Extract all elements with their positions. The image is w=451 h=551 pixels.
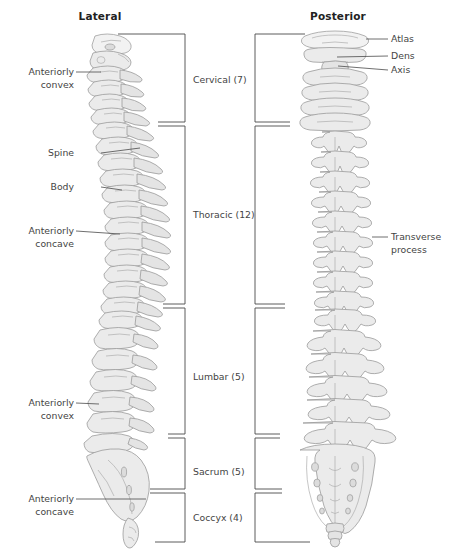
callout-spine-process-line1: Spine	[0, 147, 74, 160]
callout-transverse-process-line1: Transverse	[391, 231, 451, 244]
callout-dens-line1: Dens	[391, 50, 449, 63]
segment-label-lumbar: Lumbar (5)	[193, 371, 245, 382]
bracket-sacrum-posterior	[255, 438, 282, 489]
callout-cervical-curve-line2: convex	[0, 79, 74, 92]
bracket-cervical-posterior	[255, 34, 305, 122]
bracket-thoracic-lateral	[158, 126, 185, 304]
leader-dens	[337, 56, 388, 57]
callout-lumbar-curve: Anteriorly convex	[0, 397, 74, 422]
bracket-thoracic-posterior	[255, 126, 290, 304]
segment-label-sacrum: Sacrum (5)	[193, 466, 245, 477]
bracket-cervical-lateral	[118, 34, 185, 122]
callout-axis: Axis	[391, 64, 449, 77]
callout-atlas-line1: Atlas	[391, 33, 449, 46]
callout-lumbar-curve-line2: convex	[0, 410, 74, 423]
callout-thoracic-curve-line1: Anteriorly	[0, 225, 74, 238]
callout-sacral-curve: Anteriorly concave	[0, 493, 74, 518]
callout-transverse-process: Transverse process	[391, 231, 451, 256]
callout-cervical-curve: Anteriorly convex	[0, 66, 74, 91]
leader-spine-process	[101, 148, 140, 153]
callout-sacral-curve-line1: Anteriorly	[0, 493, 74, 506]
callout-vertebral-body-line1: Body	[0, 181, 74, 194]
callout-dens: Dens	[391, 50, 449, 63]
leader-thoracic-curve	[76, 231, 120, 234]
bracket-sacrum-lateral	[150, 438, 185, 489]
bracket-coccyx-lateral	[150, 493, 185, 542]
segment-label-thoracic: Thoracic (12)	[193, 209, 255, 220]
callout-atlas: Atlas	[391, 33, 449, 46]
callout-transverse-process-line2: process	[391, 244, 451, 257]
callout-vertebral-body: Body	[0, 181, 74, 194]
callout-cervical-curve-line1: Anteriorly	[0, 66, 74, 79]
callout-spine-process: Spine	[0, 147, 74, 160]
callout-sacral-curve-line2: concave	[0, 506, 74, 519]
bracket-coccyx-posterior	[255, 493, 310, 542]
callout-thoracic-curve: Anteriorly concave	[0, 225, 74, 250]
segment-label-cervical: Cervical (7)	[193, 74, 247, 85]
callout-lumbar-curve-line1: Anteriorly	[0, 397, 74, 410]
leader-axis	[338, 66, 388, 70]
leader-lumbar-curve	[76, 403, 99, 404]
callout-axis-line1: Axis	[391, 64, 449, 77]
bracket-lumbar-posterior	[255, 308, 285, 434]
spine-diagram: Lateral Posterior	[0, 0, 451, 551]
leader-vertebral-body	[101, 187, 122, 190]
segment-label-coccyx: Coccyx (4)	[193, 512, 243, 523]
callout-thoracic-curve-line2: concave	[0, 238, 74, 251]
bracket-lumbar-lateral	[163, 308, 185, 434]
